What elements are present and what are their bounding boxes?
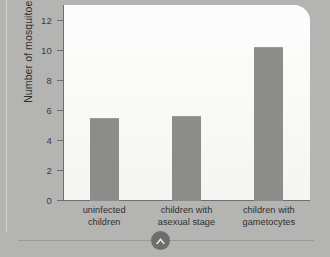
- x-axis-category-label-line: asexual stage: [145, 217, 227, 229]
- y-tick-label: 12: [30, 15, 52, 26]
- bar: [254, 47, 283, 201]
- y-tick-label: 6: [30, 105, 52, 116]
- y-tick-label: 4: [30, 135, 52, 146]
- y-tick-mark: [57, 200, 63, 201]
- bar: [90, 118, 119, 202]
- x-axis-category-label-line: uninfected: [63, 205, 145, 217]
- bar-chart-figure: Number of mosquitoes 024681012 uninfecte…: [0, 0, 330, 257]
- y-tick-mark: [57, 170, 63, 171]
- x-axis-category-label-line: children with: [145, 205, 227, 217]
- x-axis-category-label: uninfectedchildren: [63, 205, 145, 228]
- y-tick-label: 0: [30, 195, 52, 206]
- x-axis-category-label-line: gametocytes: [228, 217, 310, 229]
- bar: [172, 116, 201, 201]
- x-axis-category-label-line: children: [63, 217, 145, 229]
- y-axis-line: [63, 5, 64, 201]
- y-tick-mark: [57, 110, 63, 111]
- x-axis-category-label-line: children with: [228, 205, 310, 217]
- x-axis-category-label: children withasexual stage: [145, 205, 227, 228]
- y-tick-mark: [57, 50, 63, 51]
- y-tick-mark: [57, 20, 63, 21]
- y-tick-mark: [57, 140, 63, 141]
- y-tick-label: 10: [30, 45, 52, 56]
- y-tick-mark: [57, 80, 63, 81]
- x-axis-category-label: children withgametocytes: [228, 205, 310, 228]
- y-tick-label: 2: [30, 165, 52, 176]
- y-tick-label: 8: [30, 75, 52, 86]
- chevron-up-icon[interactable]: [151, 231, 170, 250]
